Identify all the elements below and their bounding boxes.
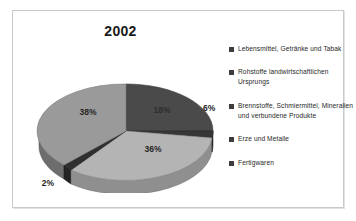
pie-label-fuels: 36% bbox=[144, 144, 161, 154]
legend-item-agri-raw[interactable]: Rohstoffe landwirtschaftlichen Ursprungs bbox=[229, 67, 356, 87]
legend-item-ores[interactable]: Erze und Metalle bbox=[229, 134, 356, 144]
legend-item-label: Lebensmittel, Getränke und Tabak bbox=[238, 44, 342, 54]
legend-marker-square-icon bbox=[229, 104, 234, 109]
pie-label-agri-raw: 6% bbox=[203, 103, 216, 113]
legend-item-food[interactable]: Lebensmittel, Getränke und Tabak bbox=[229, 44, 356, 54]
legend-item-label: Brennstoffe, Schmiermittel, Mineralien u… bbox=[238, 101, 356, 121]
legend-item-fuels[interactable]: Brennstoffe, Schmiermittel, Mineralien u… bbox=[229, 101, 356, 121]
legend-marker-square-icon bbox=[229, 137, 234, 142]
pie-label-food: 18% bbox=[153, 105, 170, 115]
legend-marker-square-icon bbox=[229, 70, 234, 75]
legend-item-label: Fertigwaren bbox=[238, 158, 274, 168]
legend-item-manufactured[interactable]: Fertigwaren bbox=[229, 158, 356, 168]
pie-chart: 18% 6% 36% 2% 38% bbox=[31, 73, 221, 193]
chart-legend: Lebensmittel, Getränke und Tabak Rohstof… bbox=[229, 44, 356, 182]
pie-label-manufactured: 38% bbox=[79, 107, 96, 117]
chart-title: 2002 bbox=[13, 23, 228, 39]
legend-marker-square-icon bbox=[229, 161, 234, 166]
pie-chart-svg: 18% 6% 36% 2% 38% bbox=[31, 73, 221, 193]
legend-item-label: Rohstoffe landwirtschaftlichen Ursprungs bbox=[238, 67, 356, 87]
legend-marker-square-icon bbox=[229, 47, 234, 52]
pie-label-ores: 2% bbox=[42, 178, 55, 188]
legend-item-label: Erze und Metalle bbox=[238, 134, 289, 144]
chart-frame: 2002 bbox=[12, 10, 344, 208]
